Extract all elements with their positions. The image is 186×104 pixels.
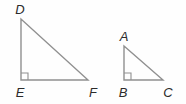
vertex-label-E: E xyxy=(16,85,25,100)
right-angle-marker-B xyxy=(124,73,131,80)
vertex-label-A: A xyxy=(119,29,129,44)
triangles-svg: D E F A B C xyxy=(0,0,186,104)
triangle-DEF-outline xyxy=(21,19,88,80)
triangle-DEF: D E F xyxy=(15,2,98,100)
geometry-figure: D E F A B C xyxy=(0,0,186,104)
vertex-label-C: C xyxy=(163,85,173,100)
vertex-label-D: D xyxy=(15,2,24,17)
vertex-label-F: F xyxy=(89,85,98,100)
triangle-ABC-outline xyxy=(124,46,163,80)
right-angle-marker-E xyxy=(21,73,28,80)
vertex-label-B: B xyxy=(119,85,128,100)
triangle-ABC: A B C xyxy=(119,29,174,100)
